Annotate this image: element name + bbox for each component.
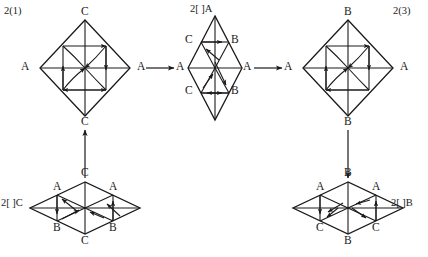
vertex-label: C (81, 6, 89, 18)
diagram-canvas (0, 0, 428, 257)
vertex-label: C (372, 222, 380, 234)
arrow-left-down (90, 212, 104, 218)
diagonal-arrow-down-right (348, 46, 369, 68)
vertex-label: A (243, 61, 251, 73)
arrow-to-lower-right (215, 62, 226, 85)
vertex-label: C (185, 34, 193, 46)
vertex-label: B (231, 34, 239, 46)
vertex-label: B (344, 235, 352, 247)
diag-lr (215, 68, 229, 93)
vertex-label: A (176, 61, 184, 73)
panel-top-middle-graphics (188, 16, 242, 120)
vertex-label: A (316, 181, 324, 193)
diagonal-arrow-down-right (85, 46, 106, 68)
curve-upper-left (326, 46, 348, 68)
vertex-label: C (81, 116, 89, 128)
vertex-label: C (81, 235, 89, 247)
panel-bottom-right-graphics (293, 182, 403, 234)
panel-tag-top-left: 2(1) (4, 6, 22, 17)
vertex-label: B (109, 222, 117, 234)
panel-tag-top-middle: 2[ ]A (190, 4, 212, 15)
vertex-label: A (372, 181, 380, 193)
curve-lower-right (348, 68, 369, 90)
vertex-label: B (344, 6, 352, 18)
vertex-label: A (284, 61, 292, 73)
vertex-label: C (185, 85, 193, 97)
panel-tag-bottom-left: 2[ ]C (1, 198, 23, 209)
diagram-root: 2(1) 2[ ]A 2(3) 2[ ]C 2[ ]B C A A C C B … (0, 0, 428, 257)
panel-top-left-graphics (40, 20, 130, 116)
vertex-label: A (400, 61, 408, 73)
arrow-to-center-from-ll (203, 74, 213, 88)
vertex-label: B (344, 167, 352, 179)
vertex-label: C (81, 167, 89, 179)
connectors (85, 68, 348, 178)
vertex-label: A (21, 61, 29, 73)
curve-lower-right (85, 68, 106, 90)
diagonal-arrow-up-left (63, 68, 85, 90)
vertex-label: A (137, 61, 145, 73)
vertex-label: B (231, 85, 239, 97)
panel-tag-top-right: 2(3) (393, 6, 411, 17)
vertex-label: B (344, 116, 352, 128)
curve-upper-left (63, 46, 85, 68)
vertex-label: C (316, 222, 324, 234)
diagonal-arrow-up-left (326, 68, 348, 90)
panel-top-right-graphics (303, 20, 393, 116)
arrow-right-up (62, 210, 79, 219)
vertex-label: A (109, 181, 117, 193)
diag-ur (215, 42, 229, 68)
arrow-down-right (352, 208, 366, 218)
panel-tag-bottom-right: 2[ ]B (391, 198, 413, 209)
vertex-label: A (53, 181, 61, 193)
panel-bottom-left-graphics (30, 182, 140, 234)
vertex-label: B (53, 222, 61, 234)
